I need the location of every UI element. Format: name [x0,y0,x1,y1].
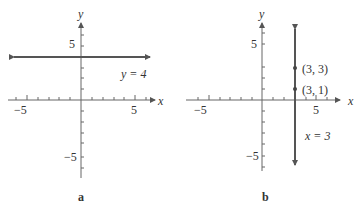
y-tick-label-neg5-b: −5 [246,150,259,162]
x-tick-label-5-a: 5 [131,104,137,116]
point-3-1 [293,87,297,91]
y-axis-label-a: y [78,8,83,20]
y-tick-label-5-b: 5 [251,38,257,50]
y-tick-label-5-a: 5 [69,38,75,50]
y-axis-label-b: y [259,8,264,20]
caption-a: a [78,191,84,203]
caption-b: b [262,191,269,203]
point-3-3 [293,66,297,70]
point-label-3-1: (3, 1) [302,84,328,96]
x-tick-label-neg5-a: −5 [14,104,27,116]
line-label-x-equals-3: x = 3 [305,130,330,142]
chart-canvas [0,0,363,210]
x-axis-label-a: x [158,95,163,107]
x-axis-label-b: x [348,95,353,107]
panel-a [8,23,155,178]
panel-b [186,23,340,171]
line-label-y-equals-4: y = 4 [121,68,146,80]
y-tick-label-neg5-a: −5 [64,151,77,163]
point-label-3-3: (3, 3) [302,63,328,75]
x-tick-label-5-b: 5 [313,104,319,116]
x-tick-label-neg5-b: −5 [194,104,207,116]
